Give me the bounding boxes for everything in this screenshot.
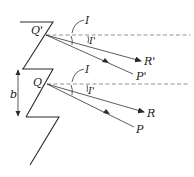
label-i-prime-upper: I'	[88, 35, 96, 46]
label-q: Q	[33, 76, 42, 89]
grating-profile	[20, 22, 59, 165]
label-b: b	[10, 88, 17, 101]
spacing-dimension: b	[10, 70, 21, 117]
label-p-prime: P'	[135, 70, 146, 83]
label-r: R	[146, 107, 155, 120]
arc-i-upper	[71, 36, 72, 45]
arrow-down-icon	[16, 111, 21, 117]
arrow-up-icon	[16, 70, 21, 76]
diagram-canvas: b I I' Q' R' P' I I' Q R P	[0, 0, 194, 177]
label-i-prime-lower: I'	[87, 85, 95, 96]
arrow-incident-lower-icon	[103, 109, 110, 114]
label-i-upper: I	[84, 14, 90, 27]
label-q-prime: Q'	[31, 24, 43, 37]
upper-rays: I I' Q' R' P'	[31, 14, 190, 83]
leader-i-upper	[72, 20, 84, 33]
label-p: P	[135, 123, 144, 136]
facet-lower	[26, 117, 59, 165]
label-i-lower: I	[84, 63, 90, 76]
label-r-prime: R'	[143, 55, 155, 68]
lower-rays: I I' Q R P	[33, 63, 190, 136]
leader-i-lower	[72, 69, 84, 82]
arc-i-lower	[71, 85, 72, 95]
